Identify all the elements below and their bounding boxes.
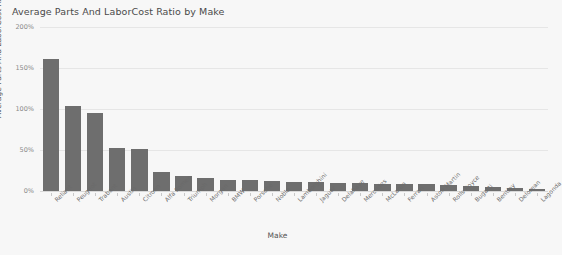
x-axis-tick (316, 193, 317, 196)
x-axis-tick (404, 193, 405, 196)
x-axis-tick (95, 193, 96, 196)
x-axis-tick (382, 193, 383, 196)
x-axis-tick (73, 193, 74, 196)
x-axis-tick (360, 193, 361, 196)
x-axis-tick (537, 193, 538, 196)
y-axis-title: Average Parts And LaborCost Ratio (0, 0, 3, 118)
x-axis-tick (184, 193, 185, 196)
y-axis-tick-label: 150% (15, 64, 34, 72)
x-axis-tick (294, 193, 295, 196)
x-axis-tick (272, 193, 273, 196)
chart-title: Average Parts And LaborCost Ratio by Mak… (12, 6, 225, 17)
y-axis-tick-label: 100% (15, 105, 34, 113)
y-axis-tick-label: 50% (20, 146, 34, 154)
x-axis-tick (493, 193, 494, 196)
x-axis-tick (228, 193, 229, 196)
x-axis-tick (206, 193, 207, 196)
y-axis-tick-labels: 0%50%100%150%200% (0, 27, 38, 191)
y-axis-tick-label: 0% (24, 187, 34, 195)
bar[interactable] (87, 113, 103, 191)
gridline (40, 191, 548, 192)
bar[interactable] (65, 106, 81, 191)
x-axis-tick (338, 193, 339, 196)
bar[interactable] (43, 59, 59, 191)
x-axis-tick (139, 193, 140, 196)
x-axis-tick (515, 193, 516, 196)
x-axis-tick (51, 193, 52, 196)
y-axis-tick-label: 200% (15, 23, 34, 31)
x-axis-tick (449, 193, 450, 196)
x-axis-tick (161, 193, 162, 196)
x-axis-title: Make (0, 231, 555, 240)
x-axis-tick (250, 193, 251, 196)
plot-area (40, 27, 548, 191)
bar-series (40, 27, 548, 191)
x-axis-tick (117, 193, 118, 196)
x-axis-tick (471, 193, 472, 196)
x-axis-tick (427, 193, 428, 196)
